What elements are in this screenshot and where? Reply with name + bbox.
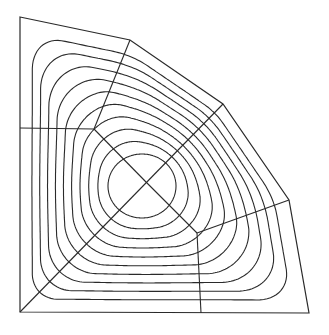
mesh-line [20, 104, 223, 312]
mesh-line [94, 129, 146, 182]
domain-boundary [20, 17, 309, 313]
mesh-line [94, 40, 130, 129]
mesh-line [197, 233, 201, 313]
mesh-line [146, 182, 197, 233]
contour-diagram [0, 0, 329, 335]
contour-line [108, 154, 176, 218]
contour-plot-canvas [0, 0, 329, 335]
mesh-line [20, 128, 94, 129]
